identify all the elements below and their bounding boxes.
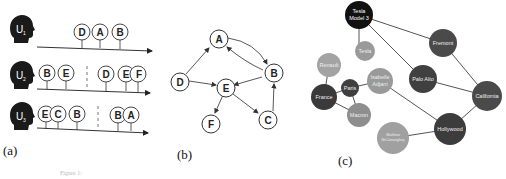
svg-text:France: France	[315, 94, 332, 100]
svg-text:Model 3: Model 3	[349, 15, 369, 21]
svg-text:A: A	[96, 27, 103, 38]
svg-text:E: E	[223, 83, 230, 94]
svg-text:F: F	[208, 119, 214, 130]
svg-text:E: E	[42, 109, 49, 120]
user-head-icon: U 2	[10, 61, 35, 89]
svg-text:B: B	[270, 68, 277, 79]
user-subscript: 1	[23, 30, 26, 36]
svg-text:B: B	[114, 110, 121, 121]
timelines-diagram: U 1 D A B U	[0, 0, 165, 179]
event-D: D	[74, 24, 90, 48]
event-E: E	[58, 65, 74, 89]
user-head-icon: U 3	[10, 102, 35, 130]
graph-node-F: F	[202, 115, 220, 133]
event-B: B	[39, 65, 55, 89]
svg-text:Renault: Renault	[320, 62, 339, 68]
entity-node-france: France	[311, 84, 337, 110]
svg-text:E: E	[123, 69, 130, 80]
entity-node-renault: Renault	[317, 53, 341, 77]
edge-b-e	[234, 77, 262, 85]
svg-text:D: D	[78, 27, 85, 38]
svg-text:E: E	[63, 68, 70, 79]
event-A: A	[123, 107, 139, 131]
graph-node-D: D	[171, 73, 189, 91]
entity-node-isabelle-adjani: Isabelle Adjani	[367, 68, 393, 94]
panel-c-caption: (c)	[338, 153, 352, 169]
svg-text:B: B	[116, 27, 123, 38]
user-1-row: U 1 D A B	[10, 15, 152, 51]
faint-figure-caption: Figure 1:	[60, 170, 82, 176]
user-3-row: U 3 E C B B	[10, 102, 148, 133]
entity-node-paris: Paris	[341, 79, 359, 97]
edge-a-b	[228, 38, 267, 64]
entity-node-matthew-mcconaughey: Matthew McConaughey	[377, 122, 409, 154]
svg-text:California: California	[475, 93, 499, 99]
svg-text:Tesla: Tesla	[359, 48, 373, 54]
svg-text:C: C	[54, 109, 61, 120]
entity-node-hollywood: Hollywood	[434, 113, 466, 145]
entity-node-fremont: Fremont	[429, 29, 457, 57]
svg-text:Paris: Paris	[344, 85, 357, 91]
panel-c-knowledge-graph: Tesla Model 3 Tesla Fremont Renault Pari…	[290, 0, 506, 179]
panel-b-transition-graph: A B D E F C (b)	[160, 0, 300, 179]
graph-node-E: E	[217, 79, 235, 97]
entity-node-tesla-model3: Tesla Model 3	[345, 1, 373, 29]
svg-text:Palo Alto: Palo Alto	[412, 76, 434, 82]
edge-d-e	[189, 81, 216, 85]
event-B: B	[112, 24, 128, 49]
svg-text:McConaughey: McConaughey	[381, 138, 404, 142]
entity-node-palo-alto: Palo Alto	[409, 65, 437, 93]
edge-b-a	[227, 47, 263, 70]
svg-text:Hollywood: Hollywood	[437, 126, 462, 132]
user-2-row: U 2 B E D E	[10, 61, 150, 93]
entity-graph: Tesla Model 3 Tesla Fremont Renault Pari…	[290, 0, 506, 179]
edge-d-a	[186, 48, 209, 74]
panel-a-user-timelines: U 1 D A B U	[0, 0, 165, 179]
edge-e-f	[215, 95, 223, 113]
svg-text:F: F	[136, 69, 142, 80]
graph-node-A: A	[210, 30, 228, 48]
edge-c-b	[273, 84, 274, 111]
panel-a-caption: (a)	[3, 143, 17, 159]
svg-text:B: B	[73, 109, 80, 120]
svg-text:A: A	[215, 34, 222, 45]
panel-b-caption: (b)	[177, 147, 192, 163]
entity-node-tesla: Tesla	[355, 41, 375, 61]
event-B: B	[69, 106, 85, 130]
svg-text:Adjani: Adjani	[372, 81, 387, 87]
event-C: C	[50, 106, 66, 129]
svg-text:D: D	[176, 77, 183, 88]
svg-text:Macron: Macron	[350, 112, 368, 118]
event-A: A	[92, 24, 108, 48]
entity-node-california: California	[472, 81, 502, 111]
svg-text:Fremont: Fremont	[433, 40, 454, 46]
svg-text:C: C	[264, 115, 271, 126]
user-head-icon: U 1	[10, 15, 35, 43]
svg-text:D: D	[102, 69, 109, 80]
user-subscript: 2	[23, 76, 26, 82]
user-subscript: 3	[23, 117, 26, 123]
event-D: D	[98, 66, 114, 91]
graph-node-B: B	[265, 64, 283, 82]
entity-node-macron: Macron	[347, 103, 371, 127]
svg-text:Tesla: Tesla	[353, 8, 367, 14]
svg-text:Matthew: Matthew	[386, 133, 400, 137]
svg-text:A: A	[127, 110, 134, 121]
event-F: F	[130, 66, 146, 92]
graph-node-C: C	[259, 111, 277, 129]
edge-e-c	[233, 94, 258, 113]
svg-text:Isabelle: Isabelle	[371, 74, 390, 80]
svg-text:B: B	[43, 68, 50, 79]
